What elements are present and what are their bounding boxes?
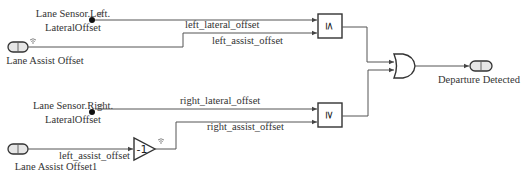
gain-input-label: left_assist_offset — [59, 150, 130, 161]
compare-bottom-output-wire[interactable] — [342, 70, 394, 116]
right-lateral-offset-label: right_lateral_offset — [180, 95, 260, 106]
left-assist-offset-label: left_assist_offset — [212, 35, 283, 46]
lane-assist-offset1-inport[interactable] — [8, 144, 28, 154]
compare-bottom-operator: ≥ — [323, 110, 336, 119]
lane-assist-offset-inport[interactable] — [8, 42, 28, 52]
departure-detected-label: Departure Detected — [438, 74, 521, 85]
simulink-diagram: Lane Sensor.Left. LateralOffset left_lat… — [0, 0, 521, 181]
left-sensor-label-line2: LateralOffset — [45, 22, 101, 33]
compare-greater-equal-block[interactable]: ≥ — [318, 103, 342, 127]
right-assist-offset-label: right_assist_offset — [207, 121, 284, 132]
wireless-signal-icon — [30, 39, 36, 44]
left-sensor-bus-dot[interactable] — [89, 17, 95, 23]
compare-top-operator: ≤ — [323, 21, 336, 30]
right-sensor-bus-dot[interactable] — [89, 109, 95, 115]
left-sensor-label-line1: Lane Sensor.Left. — [36, 8, 110, 19]
departure-detected-outport[interactable] — [470, 61, 492, 71]
gain-value: -1 — [137, 143, 148, 156]
compare-less-equal-block[interactable]: ≤ — [318, 14, 342, 38]
gain-block[interactable]: -1 — [134, 138, 155, 160]
compare-top-output-wire[interactable] — [342, 27, 394, 62]
left-lateral-offset-label: left_lateral_offset — [185, 19, 260, 30]
lane-assist-offset-label: Lane Assist Offset — [6, 55, 83, 66]
right-sensor-label-line2: LateralOffset — [45, 114, 101, 125]
wireless-signal-icon — [158, 139, 164, 144]
lane-assist-offset1-label: Lane Assist Offset1 — [15, 161, 98, 172]
or-logic-block[interactable] — [394, 54, 415, 78]
